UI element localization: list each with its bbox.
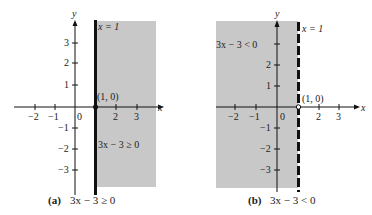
y-tick-neg3: −3 bbox=[260, 164, 271, 175]
y-tick-neg1: −1 bbox=[58, 122, 69, 133]
y-tick-1: 1 bbox=[64, 79, 69, 90]
x-axis-label: x bbox=[360, 102, 366, 113]
point-1-0-a bbox=[93, 105, 98, 110]
x-tick-2: 2 bbox=[113, 111, 118, 122]
y-axis-label: y bbox=[71, 8, 77, 19]
boundary-label-a: x = 1 bbox=[97, 21, 119, 32]
x-tick-0: 0 bbox=[280, 111, 285, 122]
x-tick-neg1: −1 bbox=[249, 111, 260, 122]
region-label-b: 3x − 3 < 0 bbox=[216, 39, 257, 50]
y-tick-2: 2 bbox=[64, 57, 69, 68]
x-arrow-icon bbox=[354, 105, 360, 110]
figure: −2 −1 0 2 3 3 2 1 −1 −2 −3 y x x = 1 (1,… bbox=[0, 0, 372, 215]
y-tick-neg2: −2 bbox=[260, 143, 271, 154]
x-tick-3: 3 bbox=[134, 111, 139, 122]
x-tick-3: 3 bbox=[336, 111, 341, 122]
caption-text-a: 3x − 3 ≥ 0 bbox=[70, 194, 116, 206]
panel-b: −2 −1 0 2 3 2 1 −1 −2 −3 y x x = 1 (1, 0… bbox=[216, 8, 366, 207]
x-tick-neg2: −2 bbox=[228, 111, 239, 122]
x-tick-neg2: −2 bbox=[28, 111, 39, 122]
point-label-b: (1, 0) bbox=[302, 93, 324, 105]
caption-letter-a: (a) bbox=[48, 194, 61, 207]
x-tick-0: 0 bbox=[77, 111, 82, 122]
x-tick-2: 2 bbox=[316, 111, 321, 122]
y-tick-neg1: −1 bbox=[260, 122, 271, 133]
y-tick-neg2: −2 bbox=[58, 143, 69, 154]
panel-a: −2 −1 0 2 3 3 2 1 −1 −2 −3 y x x = 1 (1,… bbox=[14, 8, 164, 207]
point-1-0-b bbox=[296, 105, 300, 109]
y-tick-neg3: −3 bbox=[58, 164, 69, 175]
y-tick-2: 2 bbox=[266, 59, 271, 70]
x-axis-label: x bbox=[157, 102, 163, 113]
boundary-label-b: x = 1 bbox=[301, 23, 323, 34]
region-label-a: 3x − 3 ≥ 0 bbox=[98, 139, 139, 150]
y-arrow-icon bbox=[73, 20, 78, 26]
y-axis-label: y bbox=[274, 8, 280, 19]
y-tick-1: 1 bbox=[266, 80, 271, 91]
point-label-a: (1, 0) bbox=[97, 91, 119, 103]
caption-text-b: 3x − 3 < 0 bbox=[270, 194, 316, 206]
caption-letter-b: (b) bbox=[248, 194, 262, 207]
x-tick-neg1: −1 bbox=[48, 111, 59, 122]
y-tick-3: 3 bbox=[64, 37, 69, 48]
